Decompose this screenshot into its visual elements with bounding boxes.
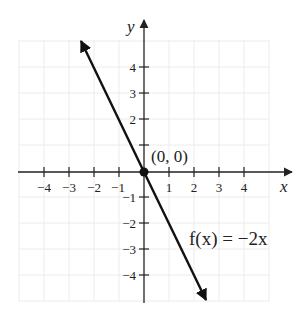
x-axis-label: x	[279, 177, 288, 196]
function-label: f(x) = −2x	[189, 228, 268, 250]
origin-point	[140, 168, 149, 177]
x-tick-label: −4	[37, 180, 51, 195]
y-axis-label: y	[125, 17, 135, 36]
y-tick-label: −2	[122, 216, 136, 231]
y-tick-label: 2	[130, 112, 137, 127]
x-tick-label: 3	[216, 180, 223, 195]
x-tick-labels: −4 −3 −2 −1 1 2 3 4	[37, 180, 248, 195]
y-tick-label: −3	[122, 242, 136, 257]
y-tick-label: −1	[122, 190, 136, 205]
x-tick-label: −3	[62, 180, 76, 195]
function-graph: −4 −3 −2 −1 1 2 3 4 4 3 2 −1 −2 −3 −4 y …	[0, 0, 305, 309]
x-tick-label: 4	[241, 180, 248, 195]
y-tick-label: 4	[130, 60, 137, 75]
x-tick-label: 1	[166, 180, 173, 195]
x-tick-label: −2	[87, 180, 101, 195]
y-tick-label: −4	[122, 268, 136, 283]
origin-point-label: (0, 0)	[151, 147, 188, 166]
x-tick-label: 2	[191, 180, 198, 195]
y-tick-label: 3	[130, 86, 137, 101]
